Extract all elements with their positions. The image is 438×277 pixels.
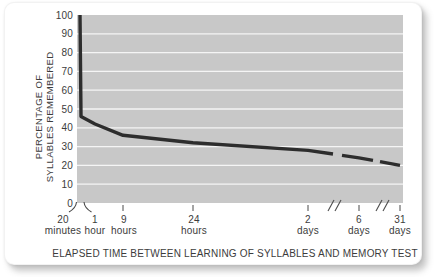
y-tick-label-10: 10 <box>61 179 73 190</box>
x-tick-label: hour <box>85 225 106 236</box>
y-tick-label-60: 60 <box>61 85 73 96</box>
x-tick-label: 24 <box>188 214 200 225</box>
x-tick-label: days <box>389 225 411 236</box>
forgetting-curve-chart: 100908070605040302010020minutes1hour9hou… <box>0 0 438 277</box>
y-tick-label-70: 70 <box>61 66 73 77</box>
x-tick-label: days <box>348 225 370 236</box>
y-tick-label-100: 100 <box>56 10 74 21</box>
x-tick-label: minutes <box>45 225 81 236</box>
x-tick-label: 2 <box>305 214 311 225</box>
x-tick-label: hours <box>181 225 207 236</box>
x-tick-label: 31 <box>394 214 406 225</box>
y-tick-label-30: 30 <box>61 141 73 152</box>
x-tick-label: days <box>297 225 319 236</box>
x-tick-label: hours <box>111 225 137 236</box>
y-tick-label-50: 50 <box>61 104 73 115</box>
x-tick-label: 6 <box>356 214 362 225</box>
y-tick-label-0: 0 <box>67 198 73 209</box>
x-tick-label: 9 <box>121 214 127 225</box>
y-tick-label-90: 90 <box>61 28 73 39</box>
x-tick-label: 1 <box>92 214 98 225</box>
axis-break-arc-right <box>84 202 92 212</box>
y-tick-label-80: 80 <box>61 47 73 58</box>
y-tick-label-40: 40 <box>61 122 73 133</box>
y-tick-label-20: 20 <box>61 160 73 171</box>
x-tick-label: 20 <box>57 214 69 225</box>
